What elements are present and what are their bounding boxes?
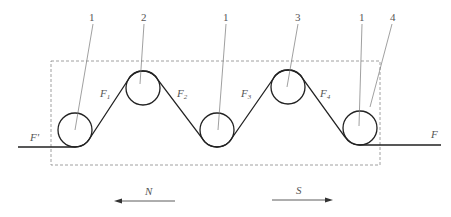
roller-diagram: 1 2 1 3 1 4 F' F1 F2 F3 F4 F N S xyxy=(0,0,451,217)
force-input-label: F' xyxy=(29,131,40,143)
roller-2 xyxy=(126,71,160,105)
force-f2-label: F2 xyxy=(176,87,188,101)
callout-2: 2 xyxy=(141,11,147,23)
callout-leaders xyxy=(75,24,392,130)
force-f3-sub: 3 xyxy=(247,93,252,101)
direction-n: N xyxy=(114,185,175,204)
callout-1-left: 1 xyxy=(89,11,95,23)
force-f1-sub: 1 xyxy=(107,93,111,101)
belt-path xyxy=(18,70,441,147)
leader-3 xyxy=(287,24,298,87)
leader-4 xyxy=(370,24,392,107)
arrow-right-icon xyxy=(325,198,333,203)
force-f2-sub: 2 xyxy=(184,93,188,101)
direction-s-label: S xyxy=(296,184,302,196)
arrow-left-icon xyxy=(114,199,122,204)
callout-3: 3 xyxy=(295,11,301,23)
callout-4: 4 xyxy=(390,11,396,23)
roller-1-middle xyxy=(200,113,234,147)
roller-3 xyxy=(271,70,305,104)
direction-s: S xyxy=(272,184,333,203)
rollers xyxy=(58,70,377,147)
force-f4-label: F4 xyxy=(319,87,331,101)
force-f3-label: F3 xyxy=(240,87,252,101)
force-f1-label: F1 xyxy=(99,87,110,101)
callout-1-middle: 1 xyxy=(223,11,229,23)
callout-labels: 1 2 1 3 1 4 xyxy=(89,11,396,23)
leader-2 xyxy=(140,24,144,84)
force-output-label: F xyxy=(430,128,438,140)
direction-n-label: N xyxy=(144,185,153,197)
force-f4-sub: 4 xyxy=(327,93,331,101)
leader-1-left xyxy=(75,24,93,130)
callout-1-right: 1 xyxy=(359,11,365,23)
roller-1-right xyxy=(343,111,377,145)
